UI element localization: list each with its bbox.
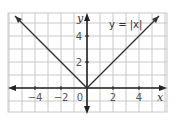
equation-label: y = |x| <box>109 19 142 31</box>
x-tick-label: −2 <box>54 92 69 103</box>
x-axis-label: x <box>157 91 164 104</box>
y-axis-label: y <box>76 12 84 25</box>
y-tick-label: 4 <box>76 31 82 42</box>
x-tick-label: 4 <box>136 92 142 103</box>
x-tick-label: 2 <box>110 92 116 103</box>
x-tick-label: 0 <box>77 92 83 103</box>
tick-labels: −4−202424 <box>28 31 143 103</box>
y-tick-label: 2 <box>76 57 82 68</box>
x-tick-label: −4 <box>28 92 43 103</box>
chart: −4−202424 x y y = |x| <box>0 0 175 120</box>
